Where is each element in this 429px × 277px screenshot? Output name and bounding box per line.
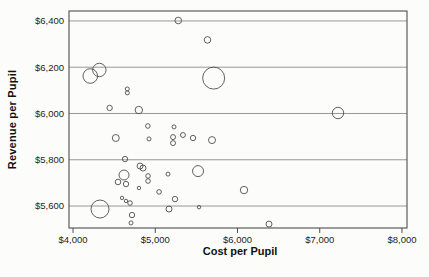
data-point — [83, 69, 98, 84]
data-point — [124, 199, 127, 202]
y-axis-tick-labels: $5,600$5,800$6,000$6,200$6,400 — [35, 15, 64, 211]
data-point — [137, 186, 140, 189]
data-point — [193, 166, 204, 177]
y-tick-label: $5,800 — [35, 154, 64, 165]
data-point — [209, 137, 216, 144]
x-tick-label: $7,000 — [305, 234, 334, 245]
data-point — [91, 200, 109, 218]
data-point — [122, 156, 127, 161]
data-point — [172, 125, 176, 129]
data-point — [120, 196, 123, 199]
data-point — [125, 87, 129, 91]
data-point — [332, 107, 343, 118]
x-axis-tick-marks — [73, 228, 402, 233]
data-point — [147, 137, 151, 141]
data-point — [157, 190, 162, 195]
data-point — [112, 135, 119, 142]
data-point — [107, 105, 112, 110]
y-tick-label: $6,200 — [35, 62, 64, 73]
data-point — [146, 179, 151, 184]
data-point — [171, 141, 176, 146]
data-point — [123, 181, 128, 186]
x-tick-label: $8,000 — [387, 234, 416, 245]
data-point — [204, 37, 211, 44]
x-tick-label: $6,000 — [223, 234, 252, 245]
x-tick-label: $5,000 — [141, 234, 170, 245]
scatterplot-figure: $4,000$5,000$6,000$7,000$8,000 $5,600$5,… — [0, 0, 429, 277]
data-point — [166, 172, 170, 176]
data-point — [125, 91, 129, 95]
data-point — [166, 206, 172, 212]
x-tick-label: $4,000 — [58, 234, 87, 245]
data-point — [146, 174, 151, 179]
data-point — [203, 67, 225, 89]
y-axis-title: Revenue per Pupil — [6, 0, 21, 240]
data-point — [190, 135, 195, 140]
data-point — [115, 179, 121, 185]
chart-canvas: $4,000$5,000$6,000$7,000$8,000 $5,600$5,… — [0, 0, 429, 277]
data-point — [129, 212, 134, 217]
data-points — [83, 17, 344, 227]
data-point — [128, 201, 133, 206]
x-axis-tick-labels: $4,000$5,000$6,000$7,000$8,000 — [58, 234, 416, 245]
plot-border — [69, 11, 407, 228]
data-point — [129, 221, 133, 225]
y-tick-label: $5,600 — [35, 200, 64, 211]
y-tick-label: $6,400 — [35, 15, 64, 26]
data-point — [171, 135, 176, 140]
data-point — [135, 106, 142, 113]
y-tick-label: $6,000 — [35, 108, 64, 119]
data-point — [175, 17, 182, 24]
x-axis-title: Cost per Pupil — [75, 245, 405, 257]
data-point — [146, 124, 151, 129]
data-point — [240, 186, 247, 193]
data-point — [119, 170, 129, 180]
data-point — [172, 196, 177, 201]
data-point — [266, 221, 272, 227]
data-point — [180, 133, 185, 138]
